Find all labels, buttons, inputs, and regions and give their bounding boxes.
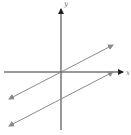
graph-canvas: y x [0,0,131,135]
x-axis-label: x [126,69,130,77]
y-axis-label: y [63,0,69,8]
